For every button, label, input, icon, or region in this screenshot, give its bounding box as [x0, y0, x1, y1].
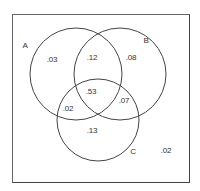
- region-a-b-c: .53: [86, 88, 97, 96]
- circle-b: [74, 28, 166, 120]
- region-b-and-c: .07: [119, 97, 130, 105]
- region-a-only: .03: [47, 56, 58, 64]
- set-label-a: A: [22, 42, 27, 50]
- region-a-and-b: .12: [87, 54, 98, 62]
- set-label-c: C: [130, 148, 136, 156]
- set-label-b: B: [143, 37, 148, 45]
- region-a-and-c: .02: [63, 105, 74, 113]
- circle-a: [30, 28, 122, 120]
- region-outside: .02: [161, 147, 172, 155]
- region-b-only: .08: [126, 54, 137, 62]
- venn-diagram: A B C .03 .12 .08 .53 .02 .07 .13 .02: [0, 0, 200, 191]
- region-c-only: .13: [87, 127, 98, 135]
- venn-circles: [0, 0, 200, 191]
